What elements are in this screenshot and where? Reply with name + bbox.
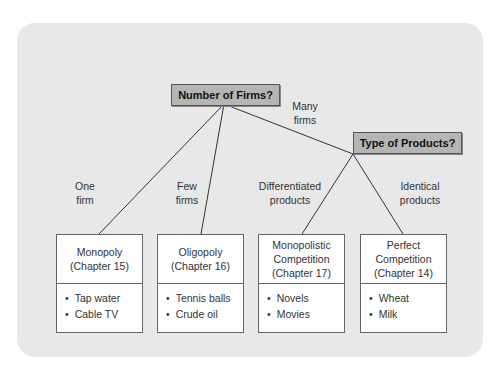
market-box-perfect-competition: PerfectCompetition(Chapter 14) Wheat Mil… [360,234,447,333]
example-item: Cable TV [65,306,142,322]
market-title: PerfectCompetition(Chapter 14) [361,235,446,284]
label-few-firms: Fewfirms [167,179,207,207]
type-of-products-question: Type of Products? [353,132,462,154]
label-differentiated-products: Differentiatedproducts [250,179,330,207]
market-box-monopoly: Monopoly(Chapter 15) Tap water Cable TV [56,234,143,333]
examples-list: Wheat Milk [361,284,446,322]
examples-list: Tap water Cable TV [57,284,142,322]
label-one-firm: Onefirm [65,179,105,207]
market-box-oligopoly: Oligopoly(Chapter 16) Tennis balls Crude… [157,234,244,333]
example-item: Novels [267,290,344,306]
example-item: Tap water [65,290,142,306]
examples-list: Tennis balls Crude oil [158,284,243,322]
example-item: Milk [369,306,446,322]
example-item: Wheat [369,290,446,306]
market-title: MonopolisticCompetition(Chapter 17) [259,235,344,284]
number-of-firms-question: Number of Firms? [171,84,280,106]
example-item: Crude oil [166,306,243,322]
label-identical-products: Identicalproducts [385,179,455,207]
examples-list: Novels Movies [259,284,344,322]
market-title: Monopoly(Chapter 15) [57,235,142,284]
example-item: Movies [267,306,344,322]
market-title: Oligopoly(Chapter 16) [158,235,243,284]
market-box-monopolistic-competition: MonopolisticCompetition(Chapter 17) Nove… [258,234,345,333]
example-item: Tennis balls [166,290,243,306]
label-many-firms: Manyfirms [285,99,325,127]
